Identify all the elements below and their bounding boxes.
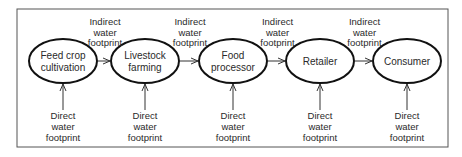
indirect-footprint-label: water (92, 27, 116, 38)
direct-footprint-label: water (50, 121, 74, 132)
direct-footprint-label: footprint (216, 132, 251, 143)
direct-footprint-livestock: Directwaterfootprint (128, 84, 163, 143)
indirect-footprint-label: Indirect (174, 16, 206, 27)
indirect-footprint-label: water (352, 27, 376, 38)
direct-footprint-retailer: Directwaterfootprint (303, 84, 338, 143)
indirect-footprint-label: water (265, 27, 289, 38)
direct-footprint-label: water (307, 121, 331, 132)
direct-footprint-label: footprint (128, 132, 163, 143)
indirect-footprint-label: footprint (347, 37, 382, 48)
node-label: cultivation (41, 62, 85, 73)
indirect-footprint-label: Indirect (89, 16, 121, 27)
water-footprint-diagram: Feed cropcultivationDirectwaterfootprint… (0, 0, 462, 157)
direct-footprint-label: Direct (221, 110, 246, 121)
node-retailer: Retailer (286, 39, 354, 83)
node-label: Livestock (124, 50, 167, 61)
indirect-footprint-label: footprint (88, 37, 123, 48)
direct-footprint-feed: Directwaterfootprint (46, 84, 81, 143)
node-label: Food (222, 50, 245, 61)
indirect-footprint-label: footprint (260, 37, 295, 48)
direct-footprint-label: Direct (308, 110, 333, 121)
indirect-footprint-label: Indirect (262, 16, 294, 27)
direct-footprint-label: Direct (51, 110, 76, 121)
node-ellipse (199, 39, 267, 83)
indirect-footprint-label: water (177, 27, 201, 38)
indirect-footprint-label: Indirect (349, 16, 381, 27)
direct-footprint-label: water (132, 121, 156, 132)
direct-footprint-label: Direct (395, 110, 420, 121)
direct-footprint-label: water (220, 121, 244, 132)
node-label: Consumer (384, 56, 431, 67)
node-ellipse (29, 39, 97, 83)
node-label: farming (128, 62, 161, 73)
direct-footprint-label: water (394, 121, 418, 132)
direct-footprint-processor: Directwaterfootprint (216, 84, 251, 143)
node-label: processor (211, 62, 256, 73)
node-processor: Foodprocessor (199, 39, 267, 83)
direct-footprint-label: Direct (133, 110, 158, 121)
node-label: Feed crop (40, 50, 85, 61)
direct-footprint-label: footprint (390, 132, 425, 143)
node-consumer: Consumer (373, 39, 441, 83)
indirect-footprint-label: footprint (173, 37, 208, 48)
direct-footprint-label: footprint (46, 132, 81, 143)
direct-footprint-label: footprint (303, 132, 338, 143)
direct-footprint-consumer: Directwaterfootprint (390, 84, 425, 143)
node-label: Retailer (303, 56, 338, 67)
node-feed: Feed cropcultivation (29, 39, 97, 83)
